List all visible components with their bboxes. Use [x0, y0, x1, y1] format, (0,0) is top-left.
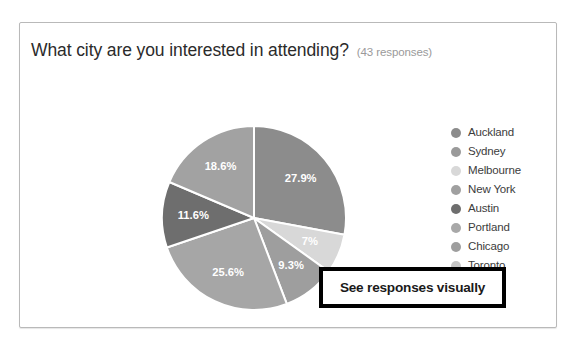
pie-slice-label: 27.9% — [285, 172, 317, 184]
pie-slice-label: 18.6% — [205, 160, 237, 172]
legend-item[interactable]: Austin — [451, 199, 561, 218]
legend-item-label: Austin — [468, 199, 499, 218]
pie-slice-label: 25.6% — [212, 266, 244, 278]
legend-item-label: Melbourne — [468, 161, 521, 180]
response-count: (43 responses) — [357, 46, 432, 58]
legend-item[interactable]: Auckland — [451, 123, 561, 142]
chart-legend: AucklandSydneyMelbourneNew YorkAustinPor… — [451, 123, 561, 275]
see-responses-visually-label: See responses visually — [340, 280, 485, 295]
legend-swatch-icon — [451, 185, 461, 195]
question-title: What city are you interested in attendin… — [31, 39, 349, 61]
legend-item-label: Sydney — [468, 142, 505, 161]
legend-item-label: New York — [468, 180, 515, 199]
pie-slice-label: 11.6% — [178, 209, 209, 221]
see-responses-visually-button[interactable]: See responses visually — [319, 267, 506, 308]
legend-swatch-icon — [451, 128, 461, 138]
legend-swatch-icon — [451, 223, 461, 233]
legend-item[interactable]: New York — [451, 180, 561, 199]
legend-swatch-icon — [451, 242, 461, 252]
legend-swatch-icon — [451, 147, 461, 157]
legend-swatch-icon — [451, 204, 461, 214]
legend-item-label: Portland — [468, 218, 510, 237]
legend-item-label: Auckland — [468, 123, 514, 142]
legend-item[interactable]: Portland — [451, 218, 561, 237]
screenshot-root: What city are you interested in attendin… — [0, 0, 574, 348]
legend-item-label: Chicago — [468, 237, 509, 256]
legend-item[interactable]: Melbourne — [451, 161, 561, 180]
survey-response-card: What city are you interested in attendin… — [19, 22, 557, 328]
pie-slice-label: 7% — [302, 235, 318, 247]
legend-item[interactable]: Chicago — [451, 237, 561, 256]
legend-swatch-icon — [451, 166, 461, 176]
card-header: What city are you interested in attendin… — [31, 39, 544, 61]
pie-slice-label: 9.3% — [278, 259, 304, 271]
legend-item[interactable]: Sydney — [451, 142, 561, 161]
